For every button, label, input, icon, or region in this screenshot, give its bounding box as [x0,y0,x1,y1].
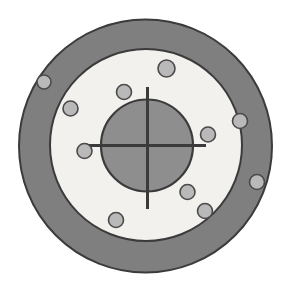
bolt-hole-3 [117,85,132,100]
bolt-hole-2 [63,101,78,116]
bolt-hole-8 [180,185,195,200]
figure-root [0,0,289,281]
bolt-hole-5 [233,114,248,129]
bolt-hole-10 [109,213,124,228]
bolt-hole-1 [37,75,51,89]
bolt-hole-11 [77,144,92,159]
bolt-hole-6 [201,127,216,142]
disc-diagram-svg [0,0,289,281]
bolt-hole-4 [158,60,175,77]
bolt-hole-7 [250,175,265,190]
bolt-hole-9 [198,204,213,219]
